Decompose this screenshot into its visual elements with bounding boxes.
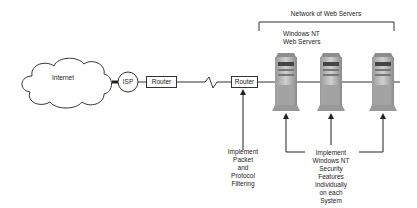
filtering-line: and xyxy=(223,164,263,172)
security-line: Individually xyxy=(306,181,356,189)
security-line: Windows NT xyxy=(306,157,356,165)
network-title: Network of Web Servers xyxy=(286,10,366,18)
router-local[interactable]: Router xyxy=(231,76,258,88)
internet-cloud-icon xyxy=(22,58,112,108)
security-arrow-3 xyxy=(359,116,383,152)
security-line: Implement xyxy=(306,149,356,157)
server-1-icon xyxy=(272,53,300,111)
filtering-line: Implement xyxy=(223,148,263,156)
security-line: Features xyxy=(306,173,356,181)
servers-label-line2: Web Servers xyxy=(283,38,333,46)
wan-link-zigzag xyxy=(177,77,231,88)
security-line: on each xyxy=(306,189,356,197)
isp-label: ISP xyxy=(118,78,138,86)
server-2-icon xyxy=(317,53,345,111)
filtering-line: Packet xyxy=(223,156,263,164)
internet-label: Internet xyxy=(48,74,78,82)
filtering-line: Filtering xyxy=(223,180,263,188)
router-isp[interactable]: Router xyxy=(146,76,177,88)
router-local-label: Router xyxy=(235,78,255,85)
servers-label-line1: Windows NT xyxy=(283,30,333,38)
security-arrow-1 xyxy=(286,116,305,152)
security-line: System xyxy=(306,197,356,205)
servers-label: Windows NT Web Servers xyxy=(283,30,333,46)
server-3-icon xyxy=(369,53,397,111)
filtering-annotation: Implement Packet and Protocol Filtering xyxy=(223,148,263,188)
filtering-line: Protocol xyxy=(223,172,263,180)
security-line: Security xyxy=(306,165,356,173)
router-isp-label: Router xyxy=(152,78,172,85)
security-annotation: Implement Windows NT Security Features I… xyxy=(306,149,356,205)
